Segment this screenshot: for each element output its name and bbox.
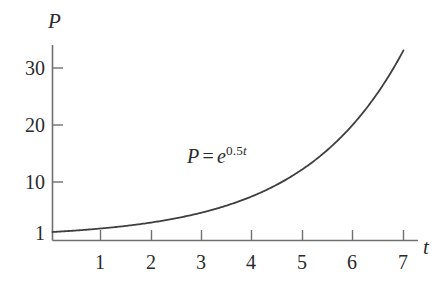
x-axis-label: t <box>423 237 429 258</box>
equation-annotation: P=e0.5t <box>187 146 247 166</box>
equation-exponent-coefficient: 0.5 <box>226 143 243 158</box>
x-tick-label-3: 3 <box>196 252 206 272</box>
x-tick-label-2: 2 <box>146 252 156 272</box>
x-tick-label-4: 4 <box>246 252 256 272</box>
exponential-curve <box>53 50 404 232</box>
y-tick-label-30: 30 <box>0 58 45 78</box>
equation-exponent: 0.5t <box>226 143 247 158</box>
y-tick-label-20: 20 <box>0 115 45 135</box>
y-tick-label-10: 10 <box>0 172 45 192</box>
x-tick-label-6: 6 <box>347 252 357 272</box>
x-tick-label-1: 1 <box>95 252 105 272</box>
equation-equals-sign: = <box>199 145 216 167</box>
exponential-growth-figure: P 30 20 10 1 1 2 3 4 5 6 7 t P=e0.5t <box>0 0 447 289</box>
x-tick-label-5: 5 <box>297 252 307 272</box>
equation-base: e <box>217 145 226 167</box>
equation-exponent-variable: t <box>243 143 247 158</box>
equation-lhs: P <box>187 145 199 167</box>
x-tick-label-7: 7 <box>398 252 408 272</box>
y-tick-label-1: 1 <box>0 223 45 243</box>
y-axis-label: P <box>48 11 61 32</box>
